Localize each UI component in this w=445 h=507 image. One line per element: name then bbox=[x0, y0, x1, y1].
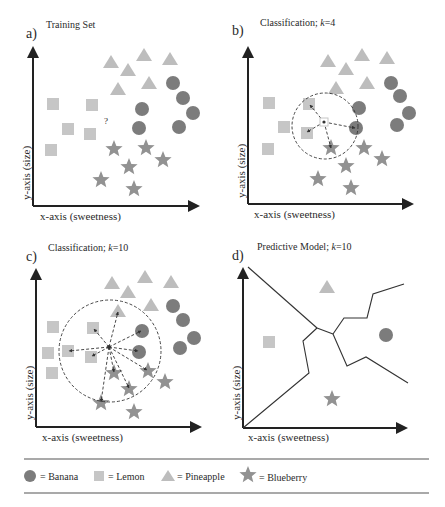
panel-c-title: Classification; k=10 bbox=[48, 242, 128, 253]
legend-item-blueberry: = Blueberry bbox=[239, 466, 307, 483]
blueberry-region-marker bbox=[323, 390, 340, 406]
panel-b: b) Classification; k=4 x-axis (sweetness… bbox=[232, 17, 416, 221]
panel-d-letter: d) bbox=[232, 248, 244, 264]
legend: = Banana = Lemon = Pineapple = Blueberry bbox=[24, 459, 429, 493]
query-point bbox=[107, 345, 111, 349]
y-axis-label: y-axis (size) bbox=[23, 366, 36, 420]
panel-c-letter: c) bbox=[26, 249, 37, 265]
triangle-icon bbox=[161, 470, 175, 481]
panel-b-letter: b) bbox=[232, 23, 244, 39]
legend-label-banana: = Banana bbox=[40, 471, 79, 482]
circle-icon bbox=[24, 470, 36, 482]
banana-points bbox=[132, 299, 201, 359]
lemon-region-marker bbox=[263, 336, 275, 348]
panel-b-title: Classification; k=4 bbox=[260, 17, 335, 28]
panel-d: d) Predictive Model; k=10 x-axis (sweetn… bbox=[230, 241, 408, 444]
pineapple-points bbox=[320, 48, 395, 94]
lemon-points bbox=[45, 98, 98, 156]
star-icon bbox=[239, 466, 256, 482]
square-icon bbox=[94, 471, 104, 481]
pineapple-region-marker bbox=[319, 280, 335, 293]
query-point bbox=[322, 120, 325, 123]
panel-d-title: Predictive Model; k=10 bbox=[257, 241, 352, 252]
y-axis-label: y-axis (size) bbox=[20, 146, 33, 200]
x-axis-label: x-axis (sweetness) bbox=[42, 431, 123, 444]
banana-points bbox=[132, 76, 200, 135]
y-axis-label: y-axis (size) bbox=[230, 366, 243, 420]
panel-a-title: Training Set bbox=[46, 19, 96, 30]
query-point-marker: ? bbox=[104, 116, 108, 126]
knn-figure: a) Training Set x-axis (sweetness) y-axi… bbox=[0, 0, 445, 507]
y-axis-label: y-axis (size) bbox=[235, 144, 248, 198]
blueberry-points bbox=[92, 139, 171, 196]
blueberry-points bbox=[92, 362, 173, 419]
pineapple-points bbox=[103, 48, 178, 95]
x-axis-label: x-axis (sweetness) bbox=[248, 431, 329, 444]
legend-item-pineapple: = Pineapple bbox=[161, 470, 225, 482]
legend-label-lemon: = Lemon bbox=[108, 471, 144, 482]
panel-c: c) Classification; k=10 x-axis (sweetnes… bbox=[23, 242, 201, 444]
banana-region-marker bbox=[379, 328, 393, 342]
legend-label-pineapple: = Pineapple bbox=[177, 471, 225, 482]
panel-a: a) Training Set x-axis (sweetness) y-axi… bbox=[20, 19, 200, 223]
blueberry-points bbox=[309, 139, 390, 195]
x-axis-label: x-axis (sweetness) bbox=[40, 210, 121, 223]
panel-a-letter: a) bbox=[26, 26, 37, 42]
lemon-points bbox=[262, 97, 315, 155]
lemon-points bbox=[42, 321, 99, 379]
banana-points bbox=[349, 76, 416, 135]
x-axis-label: x-axis (sweetness) bbox=[254, 208, 335, 221]
legend-label-blueberry: = Blueberry bbox=[259, 472, 307, 483]
legend-item-banana: = Banana bbox=[24, 470, 79, 482]
legend-item-lemon: = Lemon bbox=[94, 471, 144, 482]
